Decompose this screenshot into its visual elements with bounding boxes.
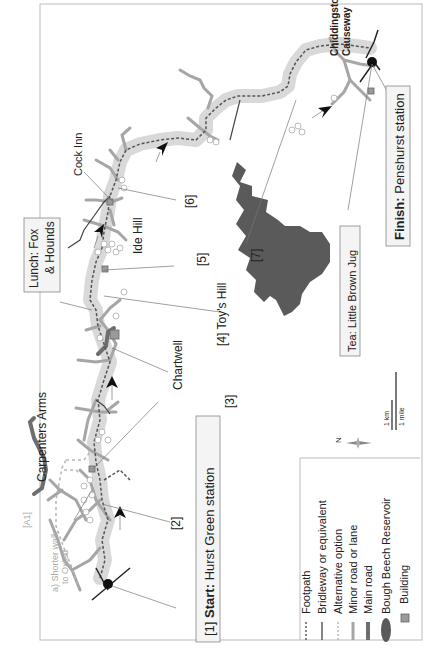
- svg-text:& Hounds: & Hounds: [43, 221, 57, 274]
- start-station-icon: [103, 579, 113, 589]
- place-cock-inn: Cock Inn: [72, 133, 84, 176]
- lunch-label: Lunch: Fox & Hounds: [24, 218, 60, 292]
- svg-text:N: N: [334, 437, 343, 443]
- legend: Footpath Bridleway or equivalent Alterna…: [300, 458, 420, 642]
- arrow-icon: [318, 106, 332, 118]
- scale-bar: 1 km 1 mile: [383, 372, 405, 430]
- start-label: [1] Start: Hurst Green station: [196, 416, 220, 642]
- route-halo: [90, 44, 370, 578]
- tea-label: Tea: Little Brown Jug: [340, 226, 360, 356]
- waypoint-6: [6]: [183, 195, 197, 208]
- place-ide-hill: Ide Hill: [131, 217, 145, 254]
- legend-minor-road-label: Minor road or lane: [347, 525, 359, 614]
- compass-icon: N: [334, 437, 372, 449]
- legend-building-symbol: [401, 614, 409, 622]
- place-chartwell: Chartwell: [171, 340, 185, 390]
- route-footpath: [90, 44, 370, 578]
- walking-route-map: [1] Start: Hurst Green station Finish: P…: [0, 0, 436, 652]
- route-spur: [104, 470, 130, 480]
- svg-text:Tea: Little Brown Jug: Tea: Little Brown Jug: [346, 250, 358, 352]
- legend-building-label: Building: [398, 565, 410, 604]
- waypoint-3: [3]: [223, 395, 237, 408]
- legend-reservoir-symbol: [381, 618, 391, 642]
- waypoint-2: [2]: [169, 517, 183, 530]
- road-label-a1: [A1]: [22, 512, 32, 528]
- svg-text:Lunch: Fox: Lunch: Fox: [27, 229, 41, 288]
- place-chiddingstone-causeway: Chiddingstone Causeway: [329, 0, 352, 56]
- legend-bridleway-label: Bridleway or equivalent: [316, 500, 328, 614]
- place-carpenters-arms: Carpenters Arms: [35, 392, 49, 482]
- legend-main-road-label: Main road: [362, 565, 374, 614]
- finish-label: Finish: Penshurst station: [386, 86, 410, 246]
- waypoint-5: [5]: [195, 253, 209, 266]
- svg-text:1 km: 1 km: [383, 411, 390, 426]
- waypoint-4: [4] Toy's Hill: [215, 283, 229, 346]
- waypoint-7: [7]: [249, 249, 263, 262]
- svg-text:[1] Start: Hurst Green station: [1] Start: Hurst Green station: [202, 468, 217, 636]
- svg-text:Finish: Penshurst station: Finish: Penshurst station: [392, 93, 407, 240]
- legend-footpath-label: Footpath: [300, 571, 312, 614]
- svg-text:1 mile: 1 mile: [398, 407, 405, 426]
- legend-alternative-label: Alternative option: [332, 529, 344, 614]
- legend-reservoir-label: Bough Beech Reservoir: [380, 497, 392, 614]
- bough-beech-reservoir: [232, 162, 330, 316]
